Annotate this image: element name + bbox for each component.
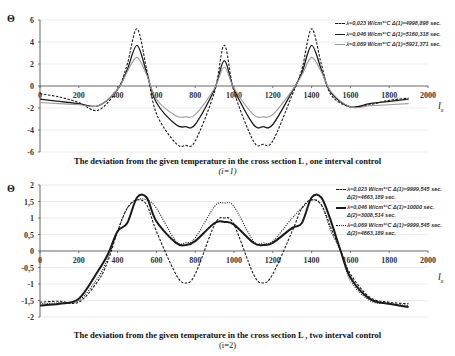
bottom-x-tick-label: 1400 [304,256,320,265]
bottom-x-tick-label: 0 [38,256,42,265]
bottom-caption: The deviation from the given temperature… [0,330,455,350]
bottom-x-tick-label: 600 [150,256,162,265]
bottom-y-tick-label: 1,5 [24,198,34,207]
top-series-line-2 [40,45,409,128]
bottom-y-tick-label: -1 [27,280,34,289]
chart-bottom-panel: 21,510,50-0,5-1-1,5-20200400600800100012… [0,178,455,356]
bottom-x-tick-label: 2000 [420,256,436,265]
top-y-tick-label: 4 [30,38,34,47]
top-x-tick-label: 1600 [342,91,358,100]
bottom-x-tick-label: 1000 [226,256,242,265]
top-x-tick-label: 2000 [420,91,436,100]
top-y-axis-title: Θ [7,13,15,24]
top-legend-item-3: λ=0,069 W/cm*°C Δ(1)=5921,371 sec. [335,41,455,49]
top-legend-label-3: λ=0,069 W/cm*°C Δ(1)=5921,371 sec. [346,41,441,49]
bottom-y-axis-title: Θ [7,183,15,194]
chart-top-panel: 6420-2-4-6020040060080010001200140016001… [0,0,455,178]
bottom-legend-label-1: λ=0,023 W/cm*°C Δ(1)=9999,545 sec. Δ(2)=… [347,186,455,201]
bottom-x-tick-label: 1800 [381,256,397,265]
top-x-tick-label: 1200 [265,91,281,100]
bottom-x-axis-title-sub: x [441,278,444,284]
bottom-legend-item-3: λ=0,069 W/cm*°C Δ(1)=9999,545 sec. Δ(2)=… [336,222,455,237]
bottom-y-tick-label: 1 [30,214,34,223]
top-y-tick-label: -2 [27,104,34,113]
bottom-y-tick-label: -1,5 [21,297,34,306]
top-caption: The deviation from the given temperature… [0,156,455,176]
top-caption-text: The deviation from the given temperature… [74,156,381,166]
top-legend-item-2: λ=0,046 W/cm*°C Δ(1)=5160,318 sec. [335,31,455,39]
top-legend-label-2: λ=0,046 W/cm*°C Δ(1)=5160,318 sec. [346,31,441,39]
bottom-y-tick-label: -0,5 [21,264,34,273]
top-y-tick-label: 6 [30,16,34,25]
bottom-legend-item-2: λ=0,046 W/cm*°C Δ(1)=10000 sec. Δ(2)=300… [336,204,455,219]
bottom-legend: λ=0,023 W/cm*°C Δ(1)=9999,545 sec. Δ(2)=… [336,186,455,240]
bottom-legend-item-1: λ=0,023 W/cm*°C Δ(1)=9999,545 sec. Δ(2)=… [336,186,455,201]
top-y-tick-label: 2 [30,60,34,69]
top-y-tick-label: 0 [30,82,34,91]
bottom-y-tick-label: 0 [30,247,34,256]
top-legend: λ=0,023 W/cm*°C Δ(1)=4998,898 sec. λ=0,0… [335,20,455,52]
bottom-legend-label-3: λ=0,069 W/cm*°C Δ(1)=9999,545 sec. Δ(2)=… [347,222,455,237]
top-x-tick-label: 400 [112,91,124,100]
solid-dark-line-swatch-icon [335,34,345,35]
top-x-tick-label: 200 [73,91,85,100]
bottom-caption-sub: (i=2) [0,340,455,350]
top-x-tick-label: 0 [38,91,42,100]
top-x-axis-title-sub: x [441,107,444,113]
top-x-tick-label: 800 [189,91,201,100]
solid-thick-line-swatch-icon [336,207,346,209]
bottom-caption-text: The deviation from the given temperature… [74,330,381,340]
top-x-axis-title: lx [438,100,443,113]
bottom-x-axis-title: lx [438,271,443,284]
top-x-tick-label: 1800 [381,91,397,100]
bottom-y-tick-label: 2 [30,181,34,190]
bottom-x-tick-label: 400 [112,256,124,265]
top-series-line-3 [40,57,409,117]
dashed-line-swatch-icon [336,189,346,190]
bottom-y-tick-label: 0,5 [24,231,34,240]
dotted-line-swatch-icon [336,225,346,226]
bottom-legend-label-2: λ=0,046 W/cm*°C Δ(1)=10000 sec. Δ(2)=300… [347,204,455,219]
bottom-y-tick-label: -2 [27,313,34,322]
bottom-x-tick-label: 200 [73,256,85,265]
bottom-x-tick-label: 1200 [265,256,281,265]
top-x-tick-label: 1400 [304,91,320,100]
dashed-line-swatch-icon [335,23,345,24]
top-legend-item-1: λ=0,023 W/cm*°C Δ(1)=4998,898 sec. [335,20,455,28]
top-caption-sub: (i=1) [0,166,455,176]
top-legend-label-1: λ=0,023 W/cm*°C Δ(1)=4998,898 sec. [346,20,441,28]
solid-light-line-swatch-icon [335,44,345,45]
top-y-tick-label: -4 [27,126,34,135]
